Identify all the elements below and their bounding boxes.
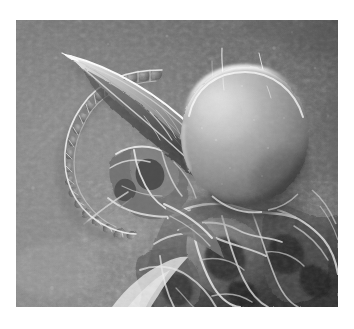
page-root: Scanning electron micrograph of an arthr… (0, 0, 354, 329)
micrograph-canvas (16, 20, 338, 307)
global-tone-overlay (16, 20, 338, 307)
sem-micrograph: Scanning electron micrograph of an arthr… (16, 20, 338, 307)
